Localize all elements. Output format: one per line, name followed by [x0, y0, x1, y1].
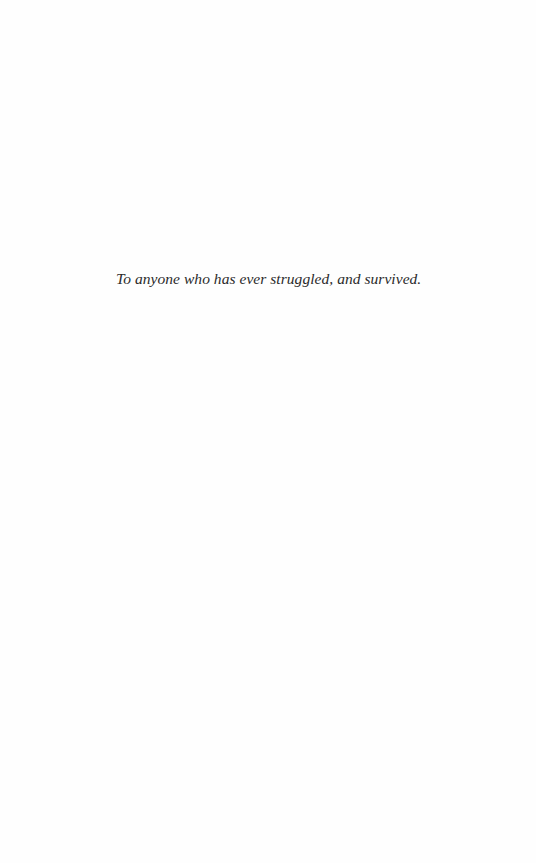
- dedication-page: To anyone who has ever struggled, and su…: [0, 0, 536, 863]
- dedication-text: To anyone who has ever struggled, and su…: [116, 269, 421, 289]
